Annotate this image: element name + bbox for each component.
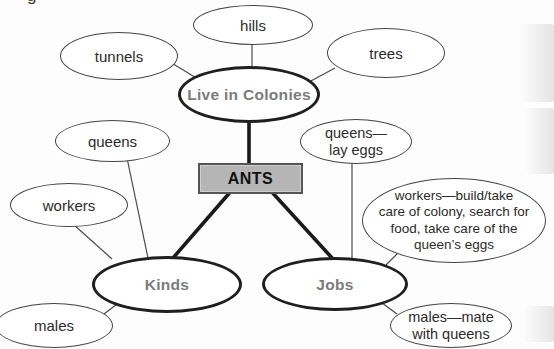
node-jobs: Jobs <box>262 257 408 311</box>
edge-ants-kinds <box>173 190 232 258</box>
node-queens-lay-eggs-line1: queens— <box>325 125 387 142</box>
node-males-mate-line1: males—mate <box>408 309 493 326</box>
node-tunnels-label: tunnels <box>95 48 143 65</box>
node-workers-label: workers <box>43 197 96 214</box>
ants-concept-map: hills tunnels trees Live in Colonies que… <box>0 0 554 349</box>
node-kinds: Kinds <box>92 256 242 313</box>
edge-ants-jobs <box>270 190 333 259</box>
node-queens-lay-eggs-line2: lay eggs <box>329 142 383 159</box>
node-live-in-colonies-label: Live in Colonies <box>187 86 311 103</box>
edge-queens-kinds <box>127 158 148 258</box>
node-workers-duties-line1: workers—build/take <box>395 188 514 205</box>
node-ants-center: ANTS <box>198 163 303 194</box>
cropped-text-fragment: g <box>27 0 36 6</box>
node-jobs-label: Jobs <box>316 276 353 293</box>
node-queens-lay-eggs: queens— lay eggs <box>300 119 412 164</box>
node-workers-duties-line4: queen’s eggs <box>414 237 494 254</box>
node-workers-duties-line3: food, take care of the <box>391 221 518 238</box>
node-males-mate-line2: with queens <box>412 326 489 343</box>
node-males-label: males <box>34 317 74 334</box>
node-tunnels: tunnels <box>60 32 178 80</box>
node-workers: workers <box>10 183 128 227</box>
node-workers-duties-line2: care of colony, search for <box>379 204 530 221</box>
node-trees-label: trees <box>369 45 402 62</box>
node-kinds-label: Kinds <box>145 276 190 293</box>
node-queens-label: queens <box>88 133 137 150</box>
node-live-in-colonies: Live in Colonies <box>178 66 320 123</box>
node-hills: hills <box>193 5 313 45</box>
node-trees: trees <box>327 28 445 78</box>
edge-trees-colonies <box>309 68 335 82</box>
node-males-mate-with-queens: males—mate with queens <box>390 303 512 348</box>
node-hills-label: hills <box>240 17 266 34</box>
scan-smudge <box>520 24 554 102</box>
node-ants-label: ANTS <box>228 170 274 188</box>
node-queens: queens <box>55 120 170 162</box>
scan-smudge <box>523 306 554 342</box>
node-males: males <box>0 303 113 348</box>
scan-smudge <box>524 108 554 174</box>
node-workers-duties: workers—build/take care of colony, searc… <box>362 178 546 263</box>
edge-workers-kinds <box>73 224 112 259</box>
